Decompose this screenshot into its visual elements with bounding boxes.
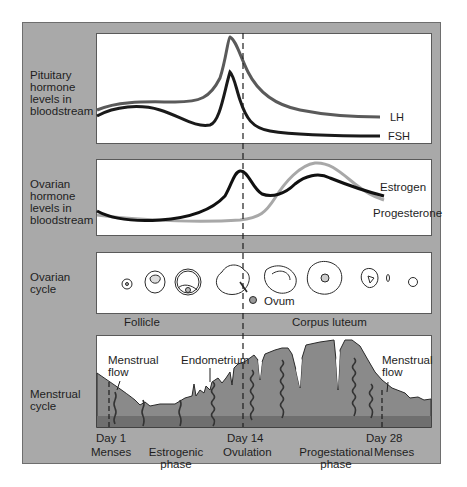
fsh-label: FSH	[388, 130, 410, 142]
ovum-icon	[250, 297, 257, 304]
diagram-graphics: LH FSH	[0, 0, 467, 487]
pituitary-curves	[97, 37, 380, 136]
endometrium-base	[97, 416, 431, 427]
fsh-curve	[97, 72, 380, 136]
lh-curve	[97, 37, 380, 117]
estrogen-curve	[97, 171, 384, 221]
corpus-luteum-label: Corpus luteum	[292, 316, 367, 328]
menstrual-flow-left-label: Menstrual flow	[108, 354, 159, 378]
corpus-albicans-icon	[387, 275, 390, 282]
estrogen-label: Estrogen	[380, 181, 426, 193]
estrogenic-phase-label: Estrogenic phase	[146, 446, 206, 470]
progesterone-label: Progesterone	[373, 207, 442, 219]
endometrium-label: Endometrium	[181, 354, 249, 366]
ovulation-label: Ovulation	[223, 446, 272, 458]
menses-start-label: Menses	[91, 446, 131, 458]
early-corpus-luteum-icon	[264, 266, 296, 293]
new-follicle-icon	[409, 278, 418, 287]
ovarian-hormone-curves	[97, 163, 384, 221]
menses-end-label: Menses	[374, 446, 414, 458]
day-14-label: Day 14	[227, 432, 263, 444]
ovum-label: Ovum	[264, 295, 295, 307]
ruptured-follicle-icon	[216, 265, 249, 295]
follicle-label: Follicle	[124, 316, 160, 328]
menstrual-flow-right-label: Menstrual flow	[382, 354, 433, 378]
lh-label: LH	[390, 111, 404, 123]
progestational-phase-label: Progestational phase	[296, 446, 376, 470]
day-28-label: Day 28	[366, 432, 402, 444]
day-1-label: Day 1	[96, 432, 126, 444]
degenerating-corpus-luteum-icon	[361, 268, 378, 287]
